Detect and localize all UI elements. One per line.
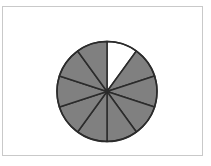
- pie-chart-svg: [0, 0, 211, 166]
- pie-chart: [0, 0, 211, 166]
- screenshot-canvas: [0, 0, 211, 166]
